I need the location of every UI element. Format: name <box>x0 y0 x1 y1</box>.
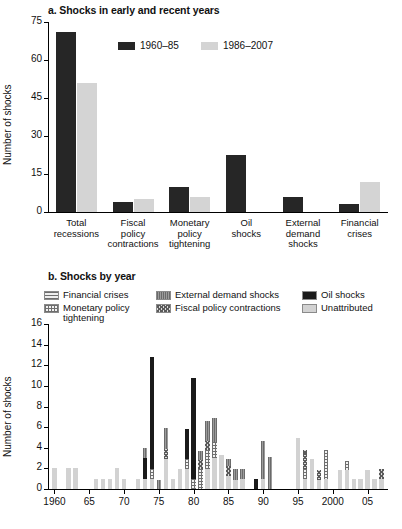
panel-b-legend: Financial crises External demand shocks … <box>44 290 402 323</box>
panel-b-segment-unattributed <box>205 469 209 489</box>
panel-b-segment-monetary-policy-tightening <box>324 450 328 479</box>
panel-b-segment-unattributed <box>219 455 223 489</box>
panel-b-segment-unattributed <box>178 469 182 489</box>
panel-b-x-axis <box>48 489 388 490</box>
panel-b-segment-unattributed <box>66 468 70 489</box>
legend-item-fiscal-policy-contractions: Fiscal policy contractions <box>156 303 302 323</box>
panel-a-y-tick <box>44 60 48 61</box>
panel-b-x-tick <box>89 490 90 494</box>
panel-a-bar-early <box>339 204 359 212</box>
legend-swatch-fiscal-policy-contractions <box>156 304 171 313</box>
panel-b-segment-external-demand-shocks <box>261 441 265 479</box>
panel-b-x-tick <box>298 490 299 494</box>
panel-a-y-tick-label: 45 <box>14 91 42 102</box>
legend-label-financial-crises: Financial crises <box>63 290 128 300</box>
panel-b-segment-fiscal-policy-contractions <box>226 466 230 475</box>
panel-b-x-tick <box>228 490 229 494</box>
panel-a-plot-area: 01530456075Total recessionsFiscal policy… <box>48 22 388 212</box>
panel-b-y-tick-label: 6 <box>18 420 42 431</box>
panel-b-year-bar <box>157 324 161 489</box>
panel-b-year-bar <box>358 324 362 489</box>
legend-swatch-oil-shocks <box>302 291 317 300</box>
panel-b-title: b. Shocks by year <box>48 270 136 282</box>
panel-b-y-tick-label: 10 <box>18 379 42 390</box>
panel-b-segment-unattributed <box>164 459 168 489</box>
panel-b-segment-monetary-policy-tightening <box>303 469 307 478</box>
panel-b-segment-oil-shocks <box>150 357 154 469</box>
panel-b-segment-unattributed <box>379 479 383 489</box>
legend-item-financial-crises: Financial crises <box>44 290 156 300</box>
panel-b-segment-oil-shocks <box>254 479 258 489</box>
panel-b-year-bar <box>317 324 321 489</box>
legend-item-unattributed: Unattributed <box>302 303 402 323</box>
panel-b-x-tick <box>194 490 195 494</box>
panel-b-segment-external-demand-shocks <box>240 469 244 478</box>
panel-b-segment-unattributed <box>352 479 356 489</box>
panel-a-bar-early <box>226 155 246 212</box>
panel-b-segment-unattributed <box>94 479 98 489</box>
panel-b-year-bar <box>136 324 140 489</box>
panel-b-segment-unattributed <box>136 479 140 489</box>
panel-b-y-tick <box>44 386 48 387</box>
panel-b-year-bar <box>73 324 77 489</box>
panel-a-bar-recent <box>134 199 154 212</box>
panel-b-segment-oil-shocks <box>143 458 147 479</box>
panel-b-segment-fiscal-policy-contractions <box>164 449 168 459</box>
panel-b-segment-unattributed <box>365 470 369 489</box>
panel-b-segment-external-demand-shocks <box>226 459 230 466</box>
panel-a-y-tick-label: 75 <box>14 15 42 26</box>
panel-a-bar-recent <box>190 197 210 212</box>
panel-a-y-tick-label: 0 <box>14 205 42 216</box>
panel-b-year-bar <box>108 324 112 489</box>
panel-b-segment-unattributed <box>226 476 230 489</box>
panel-b-segment-external-demand-shocks <box>143 448 147 458</box>
panel-b-year-bar <box>171 324 175 489</box>
panel-b-segment-unattributed <box>338 470 342 489</box>
panel-b-segment-unattributed <box>73 468 77 489</box>
panel-b-segment-unattributed <box>171 479 175 489</box>
panel-a-y-tick-label: 60 <box>14 53 42 64</box>
panel-a-bar-early <box>56 32 76 212</box>
panel-b-y-tick-label: 4 <box>18 441 42 452</box>
panel-a-x-axis <box>48 212 388 213</box>
panel-b-segment-fiscal-policy-contractions <box>205 441 209 450</box>
panel-b-segment-unattributed <box>310 459 314 489</box>
panel-a-bar-recent <box>77 83 97 212</box>
panel-a-bar-recent <box>360 182 380 212</box>
panel-b-segment-unattributed <box>240 479 244 489</box>
legend-item-external-demand-shocks: External demand shocks <box>156 290 302 300</box>
panel-b-year-bar <box>226 324 230 489</box>
panel-b-segment-monetary-policy-tightening <box>150 469 154 478</box>
panel-b-y-tick <box>44 324 48 325</box>
panel-b-segment-fiscal-policy-contractions <box>303 450 307 470</box>
panel-b-segment-fiscal-policy-contractions <box>379 469 383 478</box>
panel-b-year-bar <box>310 324 314 489</box>
panel-b-segment-monetary-policy-tightening <box>205 450 209 470</box>
panel-b-year-bar <box>338 324 342 489</box>
panel-b-year-bar <box>240 324 244 489</box>
panel-b-year-bar <box>66 324 70 489</box>
panel-a-bar-early <box>283 197 303 212</box>
panel-b-year-bar <box>198 324 202 489</box>
panel-b-y-tick <box>44 468 48 469</box>
panel-b-segment-unattributed <box>296 438 300 489</box>
panel-b-year-bar <box>254 324 258 489</box>
panel-b-year-bar <box>185 324 189 489</box>
panel-b-x-tick <box>159 490 160 494</box>
legend-swatch-unattributed <box>302 304 317 313</box>
panel-b-plot-area: 0246810121416196065707580859095200005 <box>48 324 388 489</box>
panel-b-y-axis-label: Number of shocks <box>2 352 13 482</box>
legend-label-external-demand-shocks: External demand shocks <box>175 290 279 300</box>
panel-b-segment-external-demand-shocks <box>157 480 161 489</box>
panel-a-bar-early <box>169 187 189 212</box>
legend-label-oil-shocks: Oil shocks <box>321 290 365 300</box>
panel-b-segment-monetary-policy-tightening <box>185 459 189 469</box>
panel-b-y-tick-label: 14 <box>18 338 42 349</box>
panel-b-segment-external-demand-shocks <box>164 428 168 449</box>
legend-swatch-monetary-policy-tightening <box>44 304 59 313</box>
panel-b-y-tick-label: 12 <box>18 358 42 369</box>
panel-b-y-tick <box>44 427 48 428</box>
panel-b-year-bar <box>191 324 195 489</box>
panel-b-year-bar <box>115 324 119 489</box>
panel-b-x-tick <box>263 490 264 494</box>
